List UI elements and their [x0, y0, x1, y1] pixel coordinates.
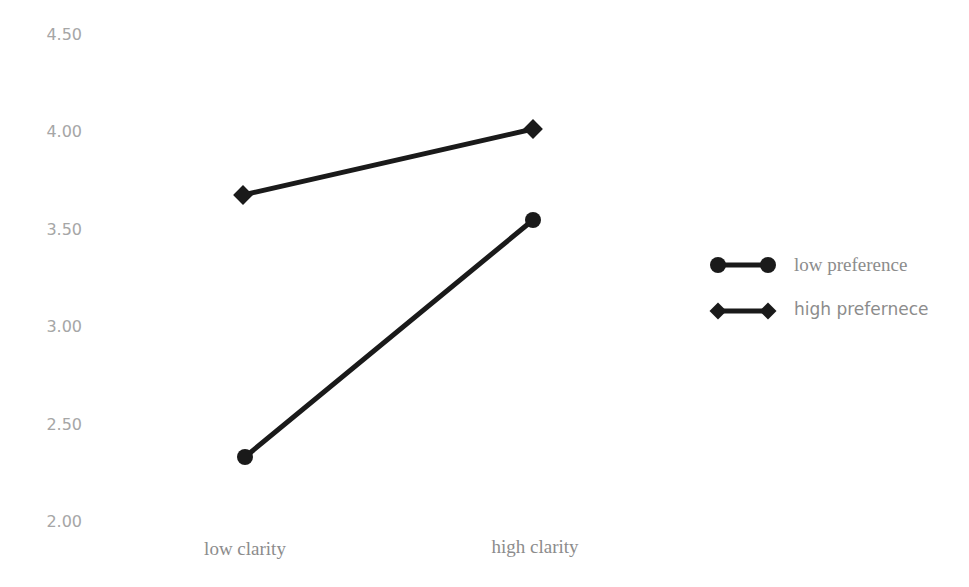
- circle-marker: [525, 212, 541, 228]
- legend-symbol-high-preference: [710, 303, 777, 320]
- circle-marker: [237, 449, 253, 465]
- plot-area: [0, 0, 969, 587]
- diamond-marker: [523, 119, 543, 139]
- series-low-preference: [237, 212, 541, 465]
- legend-symbol-low-preference: [710, 257, 776, 273]
- diamond-marker: [233, 185, 253, 205]
- legend-label-low-preference: low preference: [794, 254, 907, 276]
- series-high-preference: [233, 119, 543, 205]
- legend-label-high-preference: high prefernece: [794, 299, 929, 319]
